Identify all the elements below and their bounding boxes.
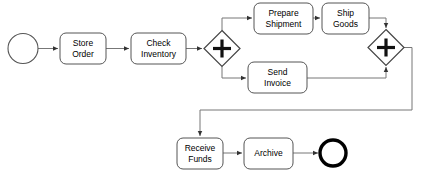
task-ship-goods-label-line2: Goods <box>333 19 358 29</box>
task-receive-funds-label-line1: Receive <box>185 143 216 153</box>
task-store-order-label-line1: Store <box>73 38 94 48</box>
task-prepare-shipment[interactable]: Prepare Shipment <box>254 3 313 34</box>
bpmn-diagram-canvas: Store Order Check Inventory Prepare Ship… <box>0 0 429 178</box>
task-receive-funds[interactable]: Receive Funds <box>177 138 223 169</box>
gateway-parallel-split[interactable] <box>204 31 240 67</box>
task-store-order-label-line2: Order <box>72 49 94 59</box>
task-prepare-shipment-label-line2: Shipment <box>266 19 303 29</box>
task-check-inventory-label-line2: Inventory <box>141 49 177 59</box>
start-event[interactable] <box>8 34 38 64</box>
task-send-invoice[interactable]: Send Invoice <box>248 62 307 93</box>
task-prepare-shipment-label-line1: Prepare <box>268 8 299 18</box>
start-event-circle <box>8 34 38 64</box>
task-check-inventory[interactable]: Check Inventory <box>131 33 186 64</box>
task-archive[interactable]: Archive <box>244 138 293 169</box>
task-ship-goods[interactable]: Ship Goods <box>322 3 369 34</box>
flow-join-to-receive-funds <box>200 48 412 137</box>
task-send-invoice-label-line2: Invoice <box>264 78 291 88</box>
task-ship-goods-label-line1: Ship <box>337 8 354 18</box>
flow-split-to-prepare-shipment <box>222 18 252 31</box>
task-receive-funds-label-line2: Funds <box>188 154 212 164</box>
end-event-circle <box>320 140 346 166</box>
task-store-order[interactable]: Store Order <box>60 33 106 64</box>
flow-split-to-send-invoice <box>222 67 246 79</box>
task-archive-label-line1: Archive <box>254 148 283 158</box>
end-event[interactable] <box>320 140 346 166</box>
task-send-invoice-label-line1: Send <box>268 67 288 77</box>
flow-send-invoice-to-join <box>307 67 386 78</box>
gateway-parallel-join[interactable] <box>368 30 404 66</box>
task-check-inventory-label-line1: Check <box>146 38 171 48</box>
flow-ship-goods-to-join <box>369 18 386 28</box>
bpmn-svg-root: Store Order Check Inventory Prepare Ship… <box>0 0 429 178</box>
